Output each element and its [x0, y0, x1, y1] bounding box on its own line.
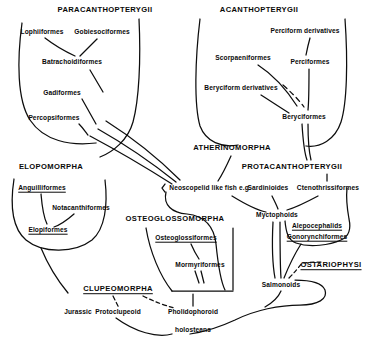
- link-perciformes-beryciformes: [308, 69, 309, 110]
- link-beryciformes-stem-a: [302, 124, 307, 160]
- acanthopterygii-outline-left: [196, 19, 238, 146]
- link-paracanth-stem-b: [98, 129, 176, 182]
- taxon-label-myctophoids: Myctophoids: [256, 212, 298, 219]
- neoscopelid-node-marker: [162, 184, 165, 192]
- taxon-label-mormyriformes: Mormyriformes: [175, 262, 224, 269]
- taxon-label-beryciform-derivatives: Beryciform derivatives: [204, 85, 277, 92]
- link-gadiformes-down: [82, 99, 96, 124]
- taxon-label-neoscopelid-like-fish: Neoscopelid like fish e.g.: [169, 185, 250, 192]
- link-myctophoids-salmonoids-a: [272, 222, 275, 278]
- link-myctophoids-salmonoids-b: [280, 222, 281, 278]
- clade-label-acanthopterygii: ACANTHOPTERYGII: [220, 6, 298, 14]
- taxon-label-perciformes: Perciformes: [290, 59, 329, 66]
- clade-label-clupeomorpha: CLUPEOMORPHA: [83, 285, 153, 293]
- link-beryciformes-stem-b: [308, 124, 311, 160]
- paracanthopterygii-outline-right: [100, 19, 140, 157]
- link-beryciform-dashed: [283, 85, 304, 107]
- taxon-label-anguilliformes: Anguilliformes: [18, 185, 66, 192]
- link-paracanth-stem-a: [90, 136, 172, 184]
- taxon-label-ctenothrissiformes: Ctenothrissiformes: [297, 185, 359, 192]
- taxon-label-gonorynchiformes: Gonorynchiformes: [287, 234, 348, 241]
- taxon-label-protoclupeoid: Protoclupeoid: [95, 309, 141, 316]
- link-anguilliformes-elopiformes: [41, 194, 47, 224]
- link-salmonoids-down: [265, 291, 281, 307]
- clade-label-paracanthopterygii: PARACANTHOPTERYGII: [58, 6, 153, 14]
- link-gonorynchiformes-salmonoids: [284, 244, 301, 278]
- link-mormyriformes-down-a: [195, 271, 199, 283]
- link-batrachoidiformes-down: [90, 70, 103, 92]
- taxon-label-lophiiformes: Lophiiformes: [21, 29, 64, 36]
- link-beryciform-derivatives-beryciformes: [261, 95, 289, 113]
- taxon-label-notacanthiformes: Notacanthiformes: [52, 205, 110, 212]
- link-mormyriformes-down-b: [201, 271, 204, 283]
- taxon-label-scorpaeniformes: Scorpaeniformes: [215, 55, 270, 62]
- link-lophiiformes-batrachoidiformes: [45, 38, 75, 56]
- taxon-label-perciform-derivatives: Perciform derivatives: [270, 28, 339, 35]
- taxon-label-elopiformes: Elopiformes: [28, 227, 67, 234]
- link-neoscopelid-myctophoids: [232, 196, 266, 212]
- link-gobiesociformes-batrachoidiformes: [80, 39, 97, 56]
- taxon-label-batrachoidiformes: Batrachoidiformes: [42, 59, 102, 66]
- taxon-label-pholidophoroid: Pholidophoroid: [168, 309, 218, 316]
- taxon-label-jurassic: Jurassic: [64, 309, 92, 316]
- taxon-label-osteoglossiformes: Osteoglossiformes: [155, 235, 216, 242]
- link-clupeomorpha-pholidophoroid: [143, 296, 175, 308]
- paracanthopterygii-outline-left: [19, 23, 96, 144]
- clade-label-ostariophysi: OSTARIOPHYSI: [300, 261, 361, 269]
- link-ctenothrissiformes-myctophoids: [287, 196, 318, 210]
- link-percopsiformes-down: [79, 124, 88, 135]
- link-elopomorpha-down: [41, 248, 68, 293]
- taxon-label-sardinioides: Sardinioides: [248, 185, 289, 192]
- taxon-label-gadiformes: Gadiformes: [43, 90, 81, 97]
- link-clupeomorpha-protoclupeoid: [113, 296, 119, 308]
- clade-label-elopomorpha: ELOPOMORPHA: [19, 163, 83, 171]
- clade-label-atherinomorpha: ATHERINOMORPHA: [193, 144, 271, 152]
- link-atherinomorpha-stem: [218, 156, 231, 181]
- clade-label-osteoglossomorpha: OSTEOGLOSSOMORPHA: [126, 215, 225, 223]
- link-sardinioides-myctophoids: [272, 196, 278, 209]
- phylogeny-diagram: PARACANTHOPTERYGII ACANTHOPTERYGII ELOPO…: [0, 0, 366, 342]
- taxon-label-alepocephalids: Alepocephalids: [292, 223, 342, 230]
- link-perciform-derivatives-perciformes: [306, 38, 310, 55]
- taxon-label-percopsiformes: Percopsiformes: [28, 115, 79, 122]
- acanthopterygii-outline-right: [306, 19, 347, 146]
- taxon-label-beryciformes: Beryciformes: [282, 114, 325, 121]
- taxon-label-holosteans: holosteans: [175, 327, 211, 334]
- link-protoclupeoid-holosteans: [116, 318, 172, 335]
- taxon-label-salmonoids: Salmonoids: [262, 282, 300, 289]
- taxon-label-gobiesociformes: Gobiesociformes: [74, 29, 129, 36]
- link-osteoglossiformes-mormyriformes: [191, 244, 199, 259]
- clade-label-protacanthopterygii: PROTACANTHOPTERYGII: [242, 163, 342, 171]
